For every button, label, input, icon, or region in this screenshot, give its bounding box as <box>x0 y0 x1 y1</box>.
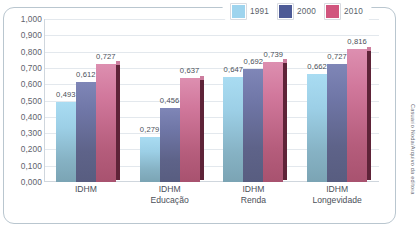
x-tick-line: Renda <box>212 195 296 206</box>
bar-1991-idhm-educação: 0,279 <box>140 137 160 182</box>
bar-front-face <box>307 74 327 182</box>
x-tick-line: IDHM <box>44 184 128 195</box>
y-tick-label: 0,800 <box>21 47 42 57</box>
y-tick-label: 0,700 <box>21 63 42 73</box>
y-tick-label: 0,200 <box>21 144 42 154</box>
x-tick-line: Educação <box>128 195 212 206</box>
legend-label: 1991 <box>250 7 269 16</box>
x-tick-line: IDHM <box>295 184 379 195</box>
bar-value-label: 0,739 <box>264 50 284 59</box>
bar-value-label: 0,727 <box>96 52 116 61</box>
bar-front-face <box>96 64 116 183</box>
bar-side-face <box>283 60 287 180</box>
bar-2000-idhm: 0,612 <box>76 82 96 182</box>
x-tick-label: IDHM <box>44 184 128 206</box>
y-tick-label: 0,100 <box>21 161 42 171</box>
y-tick-label: 0,300 <box>21 128 42 138</box>
bar-set: 0,6470,6920,739 <box>212 19 296 182</box>
bar-group: 0,6620,7270,816 <box>295 19 379 182</box>
legend-item-2010[interactable]: 2010 <box>325 4 363 19</box>
y-tick-label: 0,900 <box>21 30 42 40</box>
bar-2010-idhm-educação: 0,637 <box>180 78 200 182</box>
bar-side-face <box>116 62 120 181</box>
y-tick-label: 0,000 <box>21 177 42 187</box>
bar-value-label: 0,612 <box>76 70 96 79</box>
bar-set: 0,4930,6120,727 <box>44 19 128 182</box>
bar-2000-idhm-renda: 0,692 <box>243 69 263 182</box>
x-tick-line: Longevidade <box>295 195 379 206</box>
bar-value-label: 0,637 <box>180 66 200 75</box>
bar-top-face <box>283 59 287 63</box>
bar-group: 0,2790,4560,637 <box>128 19 212 182</box>
legend-item-1991[interactable]: 1991 <box>231 4 269 19</box>
bar-value-label: 0,816 <box>347 37 367 46</box>
y-tick-label: 0,600 <box>21 79 42 89</box>
y-tick-label: 0,400 <box>21 112 42 122</box>
bar-value-label: 0,493 <box>56 90 76 99</box>
bar-front-face <box>223 77 243 182</box>
bar-front-face <box>140 137 160 182</box>
chart-figure: 1,0000,9000,8000,7000,6000,5000,4000,300… <box>0 0 417 231</box>
bar-value-label: 0,662 <box>307 62 327 71</box>
x-tick-label: IDHMLongevidade <box>295 184 379 206</box>
bar-front-face <box>347 49 367 182</box>
bar-front-face <box>243 69 263 182</box>
bar-groups: 0,4930,6120,7270,2790,4560,6370,6470,692… <box>44 19 379 182</box>
bar-1991-idhm-longevidade: 0,662 <box>307 74 327 182</box>
bar-top-face <box>367 47 371 51</box>
bar-front-face <box>76 82 96 182</box>
x-axis-labels: IDHMIDHMEducaçãoIDHMRendaIDHMLongevidade <box>44 184 379 206</box>
x-tick-label: IDHMEducação <box>128 184 212 206</box>
bar-front-face <box>56 102 76 182</box>
x-tick-label: IDHMRenda <box>212 184 296 206</box>
gridline <box>45 182 379 183</box>
x-tick-line: IDHM <box>212 184 296 195</box>
bar-value-label: 0,727 <box>327 52 347 61</box>
bar-top-face <box>200 76 204 80</box>
bar-2010-idhm-longevidade: 0,816 <box>347 49 367 182</box>
bar-2010-idhm-renda: 0,739 <box>263 62 283 182</box>
legend-item-2000[interactable]: 2000 <box>278 4 316 19</box>
bar-set: 0,6620,7270,816 <box>295 19 379 182</box>
bar-front-face <box>180 78 200 182</box>
x-tick-line: IDHM <box>128 184 212 195</box>
bar-1991-idhm-renda: 0,647 <box>223 77 243 182</box>
legend-swatch-icon <box>278 4 293 19</box>
legend-swatch-icon <box>325 4 340 19</box>
bar-value-label: 0,692 <box>244 57 264 66</box>
y-tick-label: 1,000 <box>21 14 42 24</box>
bar-front-face <box>160 108 180 182</box>
y-axis-labels: 1,0000,9000,8000,7000,6000,5000,4000,300… <box>4 19 42 182</box>
bar-1991-idhm: 0,493 <box>56 102 76 182</box>
bar-set: 0,2790,4560,637 <box>128 19 212 182</box>
bar-side-face <box>367 47 371 180</box>
bar-value-label: 0,456 <box>160 96 180 105</box>
bar-side-face <box>200 76 204 180</box>
bar-2000-idhm-longevidade: 0,727 <box>327 64 347 183</box>
y-tick-label: 0,500 <box>21 96 42 106</box>
legend-label: 2000 <box>297 7 316 16</box>
bar-group: 0,6470,6920,739 <box>212 19 296 182</box>
bar-value-label: 0,279 <box>140 125 160 134</box>
bar-2000-idhm-educação: 0,456 <box>160 108 180 182</box>
bar-value-label: 0,647 <box>224 65 244 74</box>
chart-legend: 199120002010 <box>222 0 372 23</box>
legend-swatch-icon <box>231 4 246 19</box>
bar-front-face <box>327 64 347 183</box>
bar-front-face <box>263 62 283 182</box>
image-credit: Casuario Noda/Arquivo da editora <box>410 104 416 195</box>
bar-top-face <box>116 61 120 65</box>
bar-2010-idhm: 0,727 <box>96 64 116 183</box>
bar-group: 0,4930,6120,727 <box>44 19 128 182</box>
legend-label: 2010 <box>344 7 363 16</box>
